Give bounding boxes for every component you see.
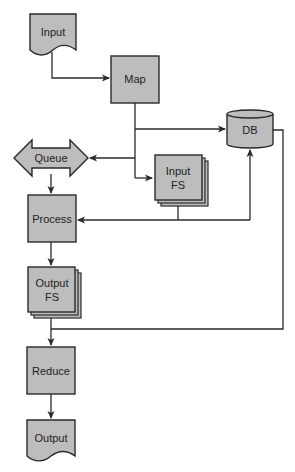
flow-diagram: Input Map DB Queue Input FS Process Outp…	[0, 0, 295, 472]
node-process-label: Process	[32, 213, 72, 225]
node-queue[interactable]: Queue	[14, 140, 88, 176]
node-reduce-label: Reduce	[32, 365, 70, 377]
node-input[interactable]: Input	[30, 14, 76, 55]
node-process[interactable]: Process	[28, 195, 76, 242]
stack-layer-1	[155, 155, 202, 200]
node-output-fs[interactable]: Output FS	[28, 267, 81, 318]
node-map[interactable]: Map	[111, 56, 159, 103]
stack-layer-1	[28, 267, 75, 312]
node-input-fs[interactable]: Input FS	[155, 155, 208, 206]
node-output[interactable]: Output	[27, 420, 75, 461]
node-reduce[interactable]: Reduce	[27, 347, 75, 394]
node-map-label: Map	[124, 73, 145, 85]
node-db[interactable]: DB	[227, 110, 273, 148]
cylinder-top	[227, 110, 273, 118]
node-output-fs-label-2: FS	[45, 291, 59, 303]
node-output-label: Output	[34, 432, 67, 444]
edges	[51, 52, 283, 418]
node-queue-label: Queue	[34, 152, 67, 164]
node-output-fs-label-1: Output	[35, 277, 68, 289]
node-input-label: Input	[41, 26, 65, 38]
node-input-fs-label-1: Input	[166, 165, 190, 177]
node-input-fs-label-2: FS	[171, 179, 185, 191]
edge-input-map	[52, 52, 109, 78]
node-db-label: DB	[242, 124, 257, 136]
